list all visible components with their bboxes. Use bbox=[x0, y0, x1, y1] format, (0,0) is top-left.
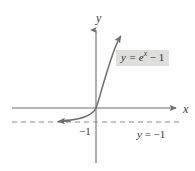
graph-canvas bbox=[0, 0, 195, 171]
equation-lhs: y = bbox=[121, 51, 139, 63]
asymptote-label-value: = −1 bbox=[142, 128, 165, 140]
equation-tail: − 1 bbox=[147, 51, 164, 63]
x-axis-label: x bbox=[183, 103, 188, 115]
curve-left-arrow bbox=[59, 121, 71, 122]
graph-figure: y x −1 y = −1 y = ex − 1 bbox=[0, 0, 195, 171]
asymptote-label: y = −1 bbox=[137, 129, 165, 140]
y-axis-label: y bbox=[96, 12, 101, 24]
y-intercept-tick-label: −1 bbox=[79, 126, 91, 137]
equation-label: y = ex − 1 bbox=[116, 50, 169, 66]
